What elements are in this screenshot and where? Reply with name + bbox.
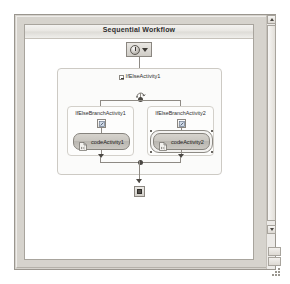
connector-split-bar-top bbox=[100, 100, 181, 101]
selection-handle[interactable] bbox=[150, 130, 152, 132]
branch-1-label: IfElseBranchActivity1 bbox=[68, 110, 133, 116]
corner-cell-bottom[interactable] bbox=[268, 257, 281, 266]
expander-minus-icon[interactable] bbox=[119, 75, 124, 80]
connector-branch1-arrow bbox=[98, 154, 104, 158]
code-activity-icon bbox=[79, 137, 87, 146]
selection-handle[interactable] bbox=[211, 130, 213, 132]
start-node[interactable] bbox=[126, 42, 152, 57]
designer-header-band: Sequential Workflow bbox=[25, 25, 253, 39]
branch-box-1[interactable]: IfElseBranchActivity1 bbox=[67, 106, 134, 156]
corner-widget-stack[interactable] bbox=[268, 247, 282, 277]
scroll-down-arrow-icon bbox=[270, 228, 274, 231]
clock-start-icon bbox=[130, 45, 140, 55]
code-activity-icon bbox=[159, 137, 167, 146]
vertical-scrollbar[interactable] bbox=[266, 15, 275, 269]
ifelse-activity-label: IfElseActivity1 bbox=[58, 73, 221, 79]
workflow-designer-surface[interactable]: Sequential Workflow IfElseActivity1 bbox=[24, 24, 254, 260]
branch-condition-icon[interactable] bbox=[97, 119, 106, 128]
resize-grip-icon[interactable] bbox=[272, 268, 282, 278]
condition-swirl-icon bbox=[135, 84, 146, 93]
ifelse-activity-label-text: IfElseActivity1 bbox=[126, 73, 161, 79]
code-activity-1[interactable]: codeActivity1 bbox=[73, 133, 130, 150]
code-activity-2-label: codeActivity2 bbox=[171, 139, 204, 145]
connector-start-to-ifelse bbox=[139, 56, 140, 68]
branch-condition-icon[interactable] bbox=[177, 119, 186, 128]
scroll-up-arrow-icon bbox=[270, 18, 274, 21]
dropdown-caret-icon[interactable] bbox=[142, 48, 148, 52]
connector-end-arrow bbox=[136, 179, 142, 183]
ifelse-activity-container[interactable]: IfElseActivity1 IfElseBranchActivity1 bbox=[57, 68, 222, 175]
code-activity-2[interactable]: codeActivity2 bbox=[153, 133, 210, 150]
scroll-up-button[interactable] bbox=[267, 15, 276, 24]
selection-handle[interactable] bbox=[150, 151, 152, 153]
scroll-down-button[interactable] bbox=[267, 225, 276, 234]
screenshot-root: Sequential Workflow IfElseActivity1 bbox=[0, 0, 290, 284]
selection-handle[interactable] bbox=[211, 151, 213, 153]
connector-branch2-arrow bbox=[178, 154, 184, 158]
branch-box-2[interactable]: IfElseBranchActivity2 bbox=[147, 106, 214, 156]
code-activity-1-label: codeActivity1 bbox=[91, 139, 124, 145]
corner-cell-top[interactable] bbox=[268, 247, 281, 256]
scroll-thumb[interactable] bbox=[267, 25, 276, 221]
page-title: Sequential Workflow bbox=[25, 26, 253, 33]
end-node[interactable] bbox=[134, 186, 145, 197]
stop-square-icon bbox=[137, 189, 142, 194]
branch-2-label: IfElseBranchActivity2 bbox=[148, 110, 213, 116]
